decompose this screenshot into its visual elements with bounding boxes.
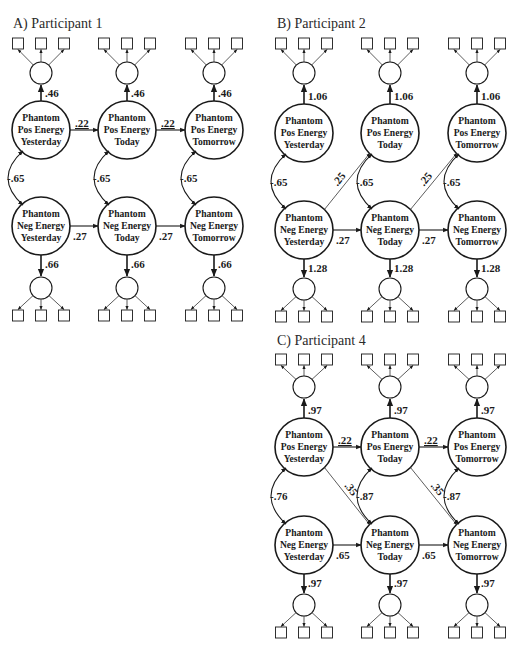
pos-latent-label: Pos Energy — [454, 127, 501, 138]
pos-latent-label: Pos Energy — [104, 124, 151, 135]
indicator-box — [385, 354, 396, 365]
neg-autoregressive-value: .65 — [422, 549, 436, 561]
indicator-arrow — [454, 366, 469, 380]
pos-latent-label: Phantom — [371, 429, 408, 440]
indicator-box — [299, 627, 310, 638]
indicator-box — [299, 311, 310, 322]
indicator-box — [362, 311, 373, 322]
neg-loading-value: 1.28 — [481, 262, 501, 274]
indicator-box — [232, 310, 243, 321]
neg-latent-label: Neg Energy — [103, 220, 151, 231]
neg-latent-label: Phantom — [285, 212, 322, 223]
neg-factor-circle — [466, 594, 488, 616]
indicator-box — [362, 354, 373, 365]
neg-autoregressive-value: .27 — [73, 230, 87, 242]
indicator-arrow — [367, 297, 382, 311]
correlation-value: -.87 — [443, 490, 461, 502]
indicator-box — [13, 310, 24, 321]
indicator-arrow — [18, 50, 33, 66]
indicator-arrow — [398, 297, 413, 311]
indicator-box — [362, 38, 373, 49]
pos-latent-label: Yesterday — [284, 453, 325, 464]
indicator-arrow — [104, 50, 119, 66]
neg-latent-label: Yesterday — [284, 236, 325, 247]
indicator-arrow — [49, 296, 64, 310]
indicator-arrow — [281, 613, 296, 627]
pos-latent-label: Tomorrow — [455, 453, 498, 464]
neg-loading-value: 1.28 — [394, 262, 414, 274]
indicator-box — [495, 311, 506, 322]
pos-latent-label: Today — [377, 139, 402, 150]
indicator-box — [122, 310, 133, 321]
pos-latent-label: Phantom — [285, 115, 322, 126]
neg-latent-label: Phantom — [22, 208, 59, 219]
pos-latent-label: Today — [114, 136, 139, 147]
indicator-arrow — [398, 613, 413, 627]
neg-loading-value: .97 — [394, 577, 408, 589]
neg-latent-label: Tomorrow — [192, 232, 235, 243]
neg-factor-circle — [203, 277, 225, 299]
neg-autoregressive-value: .65 — [336, 549, 350, 561]
neg-loading-value: .97 — [308, 577, 322, 589]
indicator-box — [408, 627, 419, 638]
correlation-value: -.65 — [443, 176, 461, 188]
pos-loading-value: 1.06 — [308, 90, 328, 102]
pos-latent-label: Pos Energy — [191, 124, 238, 135]
neg-latent-label: Phantom — [108, 208, 145, 219]
indicator-arrow — [49, 50, 64, 66]
pos-latent-label: Phantom — [195, 112, 232, 123]
neg-latent-label: Today — [114, 232, 139, 243]
pos-autoregressive-value: .22 — [424, 434, 438, 446]
indicator-box — [276, 38, 287, 49]
neg-latent-label: Neg Energy — [453, 539, 501, 550]
pos-loading-value: 1.06 — [394, 90, 414, 102]
pos-latent-label: Pos Energy — [18, 124, 65, 135]
panel-c: C) Participant 4PhantomPos EnergyYesterd… — [270, 333, 506, 638]
indicator-arrow — [135, 50, 150, 66]
indicator-box — [495, 627, 506, 638]
indicator-box — [186, 38, 197, 49]
correlation-value: -.76 — [270, 490, 288, 502]
indicator-box — [232, 38, 243, 49]
indicator-box — [59, 38, 70, 49]
neg-latent-label: Phantom — [371, 527, 408, 538]
indicator-arrow — [367, 50, 382, 66]
pos-latent-label: Phantom — [458, 115, 495, 126]
indicator-box — [13, 38, 24, 49]
cross-lagged-value: .25 — [416, 169, 434, 188]
indicator-arrow — [398, 50, 413, 66]
indicator-box — [276, 311, 287, 322]
neg-latent-label: Phantom — [285, 527, 322, 538]
indicator-arrow — [367, 366, 382, 380]
indicator-box — [449, 627, 460, 638]
indicator-box — [145, 38, 156, 49]
indicator-arrow — [312, 297, 327, 311]
neg-factor-circle — [30, 277, 52, 299]
indicator-box — [408, 311, 419, 322]
pos-latent-label: Yesterday — [284, 139, 325, 150]
indicator-box — [385, 38, 396, 49]
indicator-box — [276, 354, 287, 365]
neg-latent-label: Neg Energy — [366, 224, 414, 235]
indicator-arrow — [312, 366, 327, 380]
indicator-box — [299, 38, 310, 49]
neg-factor-circle — [293, 594, 315, 616]
pos-loading-value: .97 — [394, 404, 408, 416]
neg-factor-circle — [379, 278, 401, 300]
correlation-value: -.65 — [356, 176, 374, 188]
cross-lagged-value: .25 — [330, 169, 348, 188]
neg-factor-circle — [116, 277, 138, 299]
panel-title: C) Participant 4 — [277, 333, 366, 349]
pos-loading-value: .46 — [131, 87, 145, 99]
pos-factor-circle — [203, 62, 225, 84]
neg-latent-label: Tomorrow — [455, 236, 498, 247]
indicator-box — [449, 311, 460, 322]
neg-loading-value: 1.28 — [308, 262, 328, 274]
indicator-arrow — [367, 613, 382, 627]
neg-latent-label: Neg Energy — [453, 224, 501, 235]
indicator-box — [276, 627, 287, 638]
pos-autoregressive-value: .22 — [161, 117, 175, 129]
indicator-arrow — [281, 366, 296, 380]
correlation-value: -.65 — [270, 176, 288, 188]
pos-latent-label: Tomorrow — [455, 139, 498, 150]
